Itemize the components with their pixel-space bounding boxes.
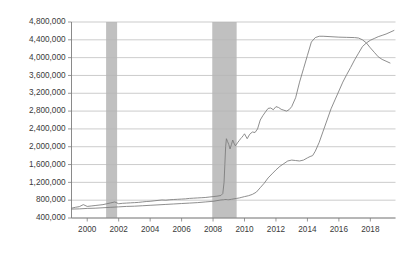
xtick-label-0: 2000 bbox=[78, 225, 97, 234]
xtick-label-9: 2018 bbox=[361, 225, 380, 234]
ytick-label-4: 3,200,000 bbox=[29, 88, 66, 97]
recession-band-2001 bbox=[106, 22, 117, 218]
xtick-label-2: 2004 bbox=[141, 225, 160, 234]
chart-container: 4,800,0004,400,0004,000,0003,600,0003,20… bbox=[0, 0, 403, 256]
recession-band-2008 bbox=[212, 22, 236, 218]
ytick-label-0: 4,800,000 bbox=[29, 17, 66, 26]
ytick-label-9: 1,200,000 bbox=[29, 178, 66, 187]
ytick-label-2: 4,000,000 bbox=[29, 53, 66, 62]
ytick-label-1: 4,400,000 bbox=[29, 35, 66, 44]
ytick-label-10: 800,000 bbox=[36, 195, 66, 204]
xtick-label-4: 2008 bbox=[204, 225, 223, 234]
line-chart: 4,800,0004,400,0004,000,0003,600,0003,20… bbox=[0, 0, 403, 256]
ytick-label-11: 400,000 bbox=[36, 213, 66, 222]
xtick-label-8: 2016 bbox=[330, 225, 349, 234]
ytick-label-5: 2,800,000 bbox=[29, 106, 66, 115]
ytick-label-7: 2,000,000 bbox=[29, 142, 66, 151]
xtick-label-7: 2014 bbox=[298, 225, 317, 234]
xtick-label-5: 2010 bbox=[235, 225, 254, 234]
ytick-label-8: 1,600,000 bbox=[29, 160, 66, 169]
xtick-label-6: 2012 bbox=[267, 225, 286, 234]
ytick-label-6: 2,400,000 bbox=[29, 124, 66, 133]
xtick-label-1: 2002 bbox=[110, 225, 129, 234]
xtick-label-3: 2006 bbox=[172, 225, 191, 234]
ytick-label-3: 3,600,000 bbox=[29, 71, 66, 80]
